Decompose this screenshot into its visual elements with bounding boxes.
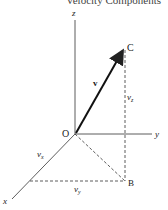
- ob-dashed: [75, 134, 125, 181]
- vy-label: vy: [74, 184, 81, 195]
- y-axis-label: y: [154, 129, 159, 139]
- point-b-label: B: [128, 178, 134, 188]
- point-c-label: C: [127, 42, 134, 53]
- origin-label: O: [62, 128, 69, 139]
- velocity-diagram: z y x O C B v vz vx vy: [0, 0, 168, 210]
- x-axis: [12, 134, 75, 199]
- vz-label: vz: [127, 92, 134, 103]
- x-axis-label: x: [2, 196, 7, 206]
- z-axis-label: z: [71, 8, 76, 18]
- vx-label: vx: [37, 149, 44, 160]
- vector-v: [76, 52, 122, 133]
- vector-v-label: v: [93, 78, 98, 88]
